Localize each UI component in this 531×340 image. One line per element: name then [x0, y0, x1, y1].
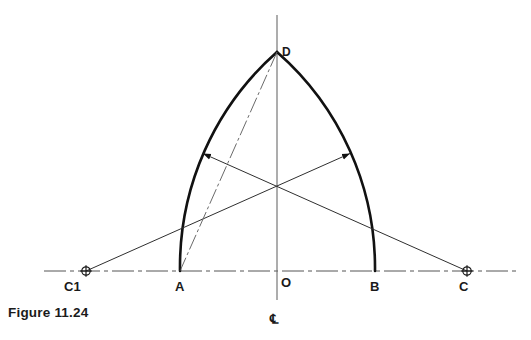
- radius-leader-from-C1: [86, 154, 350, 272]
- centerline-symbol-glyph: ℄: [269, 311, 279, 326]
- arc-right-D-to-B: [277, 52, 375, 271]
- construction-line-D-to-A: [180, 52, 277, 271]
- label-O: O: [281, 275, 291, 290]
- label-C1: C1: [64, 279, 81, 294]
- label-C: C: [459, 279, 469, 294]
- arch-construction-drawing: C1 A O B C D ℄: [0, 0, 531, 340]
- center-marker-C: [461, 265, 473, 277]
- label-D: D: [282, 45, 291, 59]
- label-B: B: [370, 279, 379, 294]
- radius-leader-from-C: [203, 154, 467, 272]
- center-marker-C1: [80, 265, 92, 277]
- label-A: A: [175, 279, 185, 294]
- centerline-symbol: ℄: [269, 311, 279, 326]
- figure-caption: Figure 11.24: [8, 305, 88, 320]
- figure-canvas: C1 A O B C D ℄ Figure 11.24: [0, 0, 531, 340]
